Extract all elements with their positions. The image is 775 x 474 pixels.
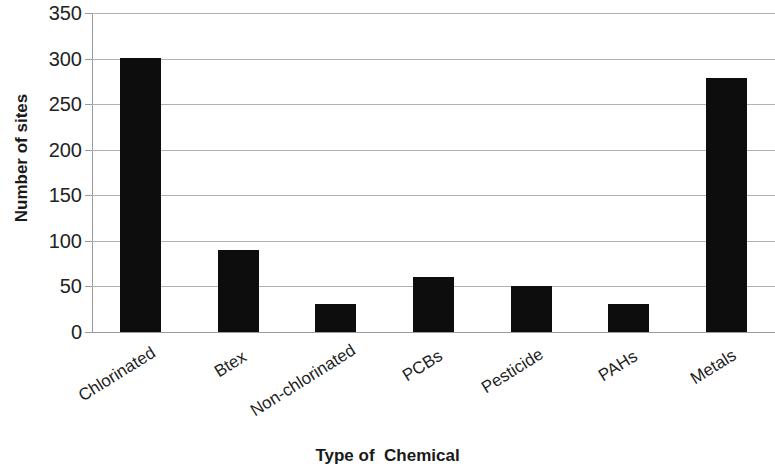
bar [413,277,454,332]
y-axis-tick-labels: 050100150200250300350 [0,0,82,345]
y-axis-tick-label: 350 [0,2,82,25]
bar [120,58,161,332]
x-axis-tick-label: Non-chlorinated [247,340,359,421]
plot-area [92,13,775,332]
x-axis-tick-label: Metals [687,346,740,389]
y-axis-tick-mark [85,59,92,60]
bar [608,304,649,332]
bar [315,304,356,332]
x-axis-tick-label: PCBs [399,346,446,386]
bar-chart: Number of sites 050100150200250300350 Ch… [0,0,775,474]
y-axis-tick-label: 150 [0,184,82,207]
y-axis-tick-label: 100 [0,229,82,252]
y-axis-tick-mark [85,241,92,242]
gridline [92,59,775,60]
gridline [92,241,775,242]
y-axis-tick-mark [85,104,92,105]
y-axis-tick-label: 50 [0,275,82,298]
y-axis-tick-mark [85,286,92,287]
y-axis-line [92,13,93,333]
y-axis-tick-label: 300 [0,47,82,70]
x-axis-tick-label: Btex [211,347,250,382]
x-axis-tick-label: Pesticide [478,344,547,398]
x-axis-tick-label: PAHs [595,346,641,385]
y-axis-tick-label: 200 [0,138,82,161]
x-axis-title: Type of Chemical [0,446,775,466]
gridline [92,332,775,333]
y-axis-tick-mark [85,195,92,196]
bar [218,250,259,332]
gridline [92,150,775,151]
gridline [92,13,775,14]
bar [706,78,747,332]
y-axis-tick-label: 0 [0,321,82,344]
gridline [92,195,775,196]
y-axis-tick-mark [85,332,92,333]
y-axis-tick-label: 250 [0,93,82,116]
y-axis-tick-mark [85,150,92,151]
gridline [92,104,775,105]
y-axis-tick-mark [85,13,92,14]
bar [511,286,552,332]
x-axis-tick-label: Chlorinated [75,343,159,406]
